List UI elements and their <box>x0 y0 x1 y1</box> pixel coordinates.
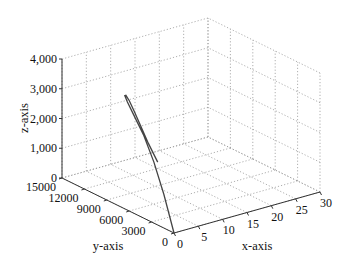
side-wall-grid-line <box>208 18 320 73</box>
y-tick-mark <box>104 200 107 201</box>
x-axis-label: x-axis <box>242 239 273 253</box>
x-tick-label: 20 <box>271 210 283 224</box>
y-tick-label: 6000 <box>99 213 123 227</box>
x-tick-mark <box>247 213 249 216</box>
x-tick-label: 0 <box>177 237 183 251</box>
y-tick-mark <box>149 222 152 223</box>
y-tick-label: 9000 <box>77 202 101 216</box>
x-tick-label: 30 <box>320 196 332 210</box>
x-tick-label: 15 <box>247 217 259 231</box>
side-wall-grid-line <box>208 48 320 103</box>
y-tick-label: 3000 <box>122 224 146 238</box>
floor-grid-line <box>107 159 253 200</box>
y-tick-mark <box>81 189 84 190</box>
z-tick-label: 0 <box>51 171 57 185</box>
x-tick-label: 5 <box>201 230 207 244</box>
floor-grid-line <box>129 170 275 211</box>
y-tick-label: 0 <box>162 235 168 249</box>
y-tick-mark <box>126 211 129 212</box>
y-axis-label: y-axis <box>93 239 124 253</box>
tick-labels: 0510152025300300060009000120001500001,00… <box>26 52 332 251</box>
z-tick-label: 3,000 <box>30 82 57 96</box>
z-tick-label: 2,000 <box>30 112 57 126</box>
side-wall-grid-line <box>208 107 320 162</box>
3d-line-chart: 0510152025300300060009000120001500001,00… <box>0 0 354 269</box>
x-tick-label: 10 <box>223 223 235 237</box>
grid-lines <box>62 18 320 233</box>
x-tick-mark <box>320 192 322 195</box>
y-tick-mark <box>171 233 174 234</box>
x-tick-mark <box>223 219 225 222</box>
z-axis-label: z-axis <box>17 103 31 133</box>
x-tick-mark <box>296 199 298 202</box>
x-tick-mark <box>198 226 200 229</box>
side-wall-grid-line <box>208 78 320 133</box>
z-tick-label: 4,000 <box>30 52 57 66</box>
z-tick-label: 1,000 <box>30 141 57 155</box>
x-tick-label: 25 <box>296 203 308 217</box>
x-tick-mark <box>174 233 176 236</box>
x-tick-mark <box>271 206 273 209</box>
